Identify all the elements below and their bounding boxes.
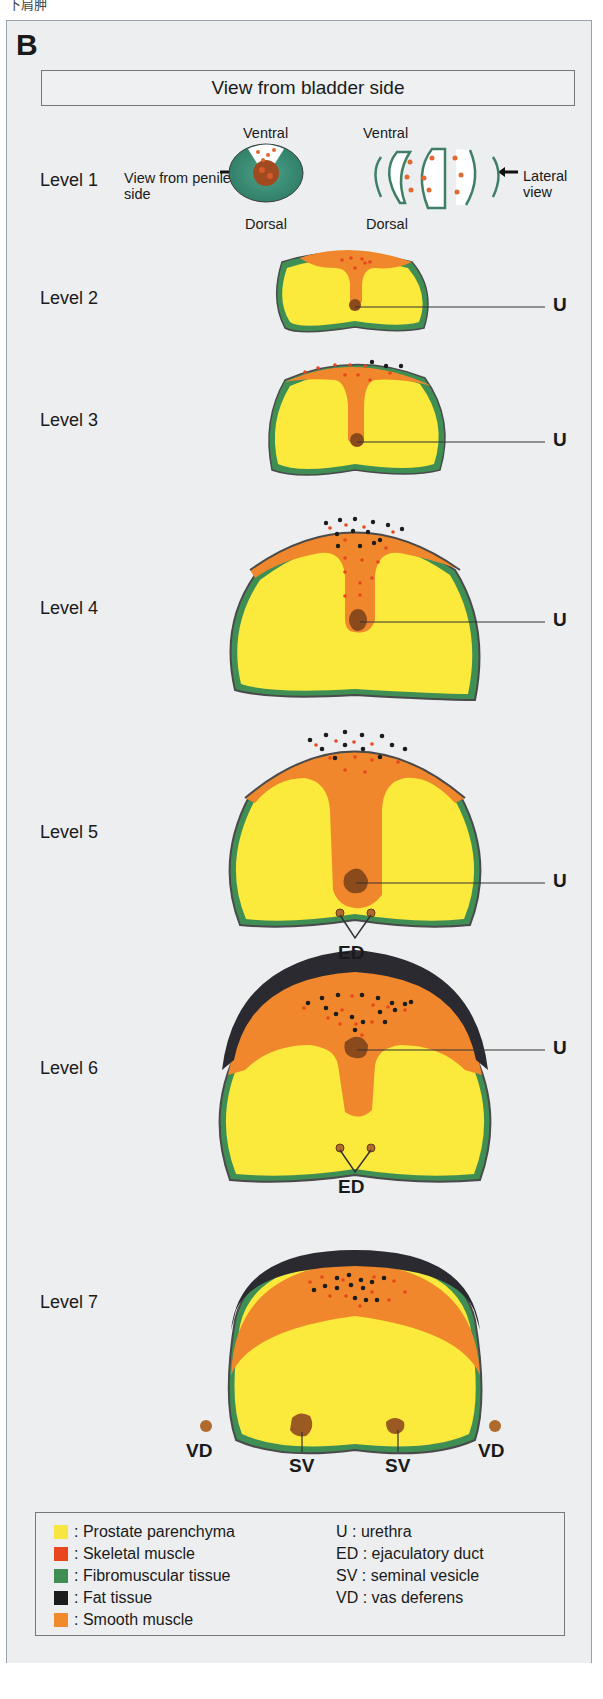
legend-label: : Fibromuscular tissue [74,1565,231,1587]
level-4-section [231,533,480,701]
black-swatch-icon [54,1591,68,1605]
ejaculatory-duct-label-level-5: ED [338,942,364,964]
level-3-section [269,364,445,475]
legend-item-smooth-muscle: : Smooth muscle [54,1609,235,1631]
urethra-label-level-2: U [553,294,567,316]
green-swatch-icon [54,1569,68,1583]
legend-abbreviations: U : urethra ED : ejaculatory duct SV : s… [336,1521,484,1609]
level-1-lateral-section [376,149,499,208]
legend-item-skeletal-muscle: : Skeletal muscle [54,1543,235,1565]
urethra-label-level-3: U [553,429,567,451]
urethra-label-level-6: U [553,1037,567,1059]
legend-label: : Smooth muscle [74,1609,193,1631]
legend-abbr-urethra: U : urethra [336,1521,484,1543]
level-6-section [220,950,491,1182]
vas-deferens-label-left: VD [186,1440,212,1462]
urethra-label-level-4: U [553,609,567,631]
level-1-penile-section [229,144,303,202]
legend-abbr-ejaculatory-duct: ED : ejaculatory duct [336,1543,484,1565]
legend-abbr-vas-deferens: VD : vas deferens [336,1587,484,1609]
level-5-section [230,752,481,939]
seminal-vesicle-label-right: SV [385,1455,410,1477]
seminal-vesicle-label-left: SV [289,1455,314,1477]
legend-item-fat-tissue: : Fat tissue [54,1587,235,1609]
level-2-section [277,250,428,332]
legend-item-fibromuscular-tissue: : Fibromuscular tissue [54,1565,235,1587]
red-swatch-icon [54,1547,68,1561]
level-7-section [200,1250,501,1453]
urethra-label-level-5: U [553,870,567,892]
arrow-left-icon [498,167,518,177]
legend-label: : Fat tissue [74,1587,152,1609]
legend-label: : Skeletal muscle [74,1543,195,1565]
prostate-cross-sections [0,0,603,1699]
yellow-swatch-icon [54,1525,68,1539]
orange-swatch-icon [54,1613,68,1627]
legend-tissues: : Prostate parenchyma : Skeletal muscle … [54,1521,235,1631]
legend-label: : Prostate parenchyma [74,1521,235,1543]
legend-item-prostate-parenchyma: : Prostate parenchyma [54,1521,235,1543]
legend-abbr-seminal-vesicle: SV : seminal vesicle [336,1565,484,1587]
ejaculatory-duct-label-level-6: ED [338,1176,364,1198]
vas-deferens-label-right: VD [478,1440,504,1462]
legend: : Prostate parenchyma : Skeletal muscle … [35,1512,565,1636]
